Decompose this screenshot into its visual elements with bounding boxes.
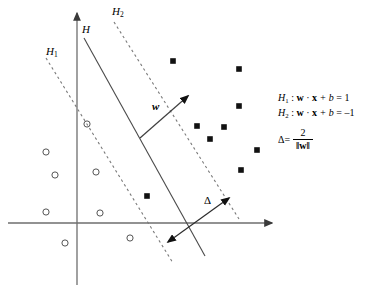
hyperplane-H1-label-base: H [46,45,54,57]
svm-margin-figure: H H1 H2 w Δ H1 : w · x + b = 1 H2 : w · … [0,0,371,291]
equation-h1-equals: = [334,92,345,103]
hyperplane-H2-line [114,22,239,219]
equation-block: H1 : w · x + b = 1 H2 : w · x + b = –1 Δ… [278,92,354,151]
equation-margin-denominator: ‖w‖ [293,140,313,151]
positive-class-point [236,66,242,72]
equation-margin-numerator: 2 [297,128,308,139]
equation-h2-equals: = [334,107,345,118]
hyperplane-H1-label-subscript: 1 [54,50,58,59]
hyperplane-H1-line [46,58,173,263]
hyperplane-H2-label-subscript: 2 [120,10,124,19]
hyperplane-H2-label: H2 [112,6,124,19]
hyperplane-H2-label-base: H [112,5,120,17]
negative-class-point [93,169,99,175]
weight-vector-arrow [140,96,188,138]
positive-class-point [194,123,200,129]
negative-class-point [97,210,103,216]
equation-h1-dot: · [304,92,312,103]
negative-class-point [127,235,133,241]
equation-margin: Δ = 2 ‖w‖ [278,128,354,151]
positive-class-point [207,136,213,142]
negative-class-points [43,121,133,246]
positive-class-point [170,58,176,64]
equation-h1-plus-b: + b [317,92,334,103]
equation-h1-w: w [296,92,303,103]
negative-class-point [62,240,68,246]
equation-h2-plus-b: + b [317,107,334,118]
equation-h2-value: –1 [344,107,354,118]
weight-vector-label: w [152,101,159,112]
equation-h2: H2 : w · x + b = –1 [278,107,354,120]
equation-h1: H1 : w · x + b = 1 [278,92,354,105]
equation-h2-dot: · [304,107,312,118]
negative-class-point [43,209,49,215]
positive-class-point [221,124,227,130]
positive-class-point [238,167,244,173]
positive-class-point [254,147,260,153]
equation-margin-equals: = [284,134,290,145]
negative-class-point [43,149,49,155]
hyperplane-H1-label: H1 [46,46,58,59]
margin-delta-arrow [168,198,229,242]
positive-class-point [144,193,150,199]
equation-h2-w: w [296,107,303,118]
positive-class-point [236,103,242,109]
equation-margin-fraction: 2 ‖w‖ [293,128,313,151]
hyperplane-H-label: H [82,24,90,35]
equation-h1-value: 1 [344,92,349,103]
margin-delta-label: Δ [204,195,211,206]
negative-class-point [52,172,58,178]
